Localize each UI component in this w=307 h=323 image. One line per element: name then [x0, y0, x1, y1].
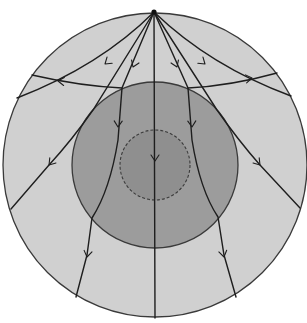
diagram-canvas: [0, 0, 307, 323]
focus-point-icon: [151, 9, 156, 14]
earth-seismic-ray-diagram: [0, 0, 307, 323]
earthquake-focus: [151, 9, 156, 14]
